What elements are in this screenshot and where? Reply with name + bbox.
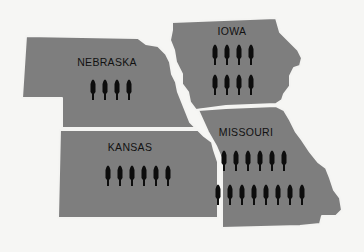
person-figure-icon	[140, 164, 148, 186]
person-figure-icon	[244, 149, 252, 171]
population-icons-nebraska	[89, 78, 133, 100]
person-figure-icon	[256, 149, 264, 171]
population-icons-iowa-row-2	[211, 73, 255, 95]
state-label-kansas: KANSAS	[108, 141, 152, 153]
person-figure-icon	[298, 183, 306, 205]
state-label-iowa: IOWA	[218, 25, 247, 37]
person-figure-icon	[89, 78, 97, 100]
person-figure-icon	[223, 43, 231, 65]
state-label-missouri: MISSOURI	[219, 126, 273, 138]
person-figure-icon	[235, 73, 243, 95]
person-figure-icon	[286, 183, 294, 205]
person-figure-icon	[223, 73, 231, 95]
person-figure-icon	[226, 183, 234, 205]
person-figure-icon	[262, 183, 270, 205]
person-figure-icon	[235, 43, 243, 65]
midwest-map	[0, 0, 364, 252]
person-figure-icon	[250, 183, 258, 205]
person-figure-icon	[125, 78, 133, 100]
person-figure-icon	[211, 73, 219, 95]
person-figure-icon	[152, 164, 160, 186]
person-figure-icon	[232, 149, 240, 171]
person-figure-icon	[214, 183, 222, 205]
state-label-nebraska: NEBRASKA	[77, 56, 137, 68]
person-figure-icon	[247, 43, 255, 65]
person-figure-icon	[101, 78, 109, 100]
person-figure-icon	[164, 164, 172, 186]
population-icons-kansas	[104, 164, 172, 186]
population-icons-missouri-row-2	[214, 183, 306, 205]
person-figure-icon	[104, 164, 112, 186]
person-figure-icon	[280, 149, 288, 171]
person-figure-icon	[116, 164, 124, 186]
person-figure-icon	[113, 78, 121, 100]
population-icons-missouri-row-1	[220, 149, 288, 171]
person-figure-icon	[274, 183, 282, 205]
person-figure-icon	[211, 43, 219, 65]
population-icons-iowa-row-1	[211, 43, 255, 65]
person-figure-icon	[220, 149, 228, 171]
person-figure-icon	[128, 164, 136, 186]
person-figure-icon	[238, 183, 246, 205]
person-figure-icon	[247, 73, 255, 95]
person-figure-icon	[268, 149, 276, 171]
